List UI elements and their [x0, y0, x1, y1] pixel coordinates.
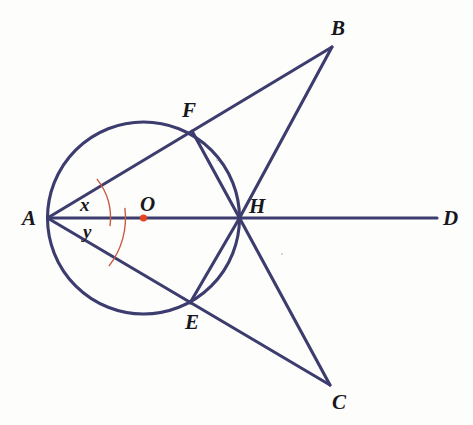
point-label-h: H — [249, 196, 265, 217]
segment-a-c — [48, 218, 331, 385]
segment-a-b — [48, 47, 333, 218]
scan-speck — [216, 159, 218, 161]
segment-f-h — [192, 131, 240, 218]
angle-label-x: x — [80, 195, 90, 214]
angle-label-y: y — [83, 222, 91, 241]
point-label-f: F — [182, 100, 196, 121]
point-label-e: E — [185, 312, 199, 333]
geometry-figure: A B C D E F H O x y — [0, 0, 473, 425]
point-label-c: C — [332, 392, 346, 413]
segment-h-b — [240, 47, 333, 218]
segment-e-h — [190, 218, 240, 303]
point-label-b: B — [331, 18, 345, 39]
point-label-d: D — [443, 208, 458, 229]
scan-speck — [281, 253, 283, 255]
point-label-a: A — [22, 208, 36, 229]
geometry-canvas — [0, 0, 473, 425]
point-label-o: O — [140, 194, 155, 215]
